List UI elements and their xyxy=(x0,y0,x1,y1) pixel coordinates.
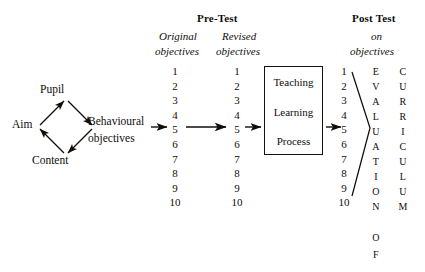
pretest-col1-line2: objectives xyxy=(155,46,199,57)
posttest-objective-item-8: 8 xyxy=(336,168,352,179)
process-line-teaching: Teaching xyxy=(265,76,322,88)
posttest-objective-item-6: 6 xyxy=(336,139,352,150)
original-objective-item-2: 2 xyxy=(167,81,183,92)
original-objective-item-10: 10 xyxy=(167,197,183,208)
curriculum-letter-u: U xyxy=(396,82,410,92)
original-objective-item-9: 9 xyxy=(167,183,183,194)
curriculum-letter-i: I xyxy=(396,127,410,137)
posttest-objective-item-3: 3 xyxy=(336,95,352,106)
original-objective-item-7: 7 xyxy=(167,154,183,165)
curriculum-letter-m: M xyxy=(396,202,410,212)
curriculum-letter-u: U xyxy=(396,187,410,197)
revised-objective-item-1: 1 xyxy=(229,66,245,77)
revised-objective-item-5: 5 xyxy=(229,124,245,135)
posttest-objective-item-5: 5 xyxy=(336,124,352,135)
curriculum-letter-r: R xyxy=(396,97,410,107)
node-content-label: Content xyxy=(32,155,68,167)
posttest-sub1: on xyxy=(371,31,382,42)
posttest-sub2: objectives xyxy=(350,46,394,57)
of-letter-o: O xyxy=(369,233,383,243)
curriculum-letter-l: L xyxy=(396,172,410,182)
evaluation-letter-v: V xyxy=(369,82,383,92)
evaluation-letter-l: L xyxy=(369,112,383,122)
pretest-heading: Pre-Test xyxy=(197,13,238,24)
of-letter-f: F xyxy=(369,250,383,260)
evaluation-letter-t: T xyxy=(369,157,383,167)
curriculum-letter-c: C xyxy=(396,67,410,77)
node-aim-label: Aim xyxy=(12,119,32,131)
posttest-objective-item-10: 10 xyxy=(336,197,352,208)
diamond-edges xyxy=(40,101,92,153)
evaluation-letter-o: O xyxy=(369,187,383,197)
process-line-process: Process xyxy=(265,135,322,147)
posttest-chevron xyxy=(352,72,370,196)
curriculum-evaluation-diagram: Aim Pupil Content Behavioural objectives… xyxy=(0,0,425,272)
original-objective-item-4: 4 xyxy=(167,110,183,121)
original-objective-item-6: 6 xyxy=(167,139,183,150)
diagram-strokes xyxy=(0,0,425,272)
pretest-col2-line2: objectives xyxy=(216,46,260,57)
posttest-objective-item-9: 9 xyxy=(336,183,352,194)
curriculum-letter-c: C xyxy=(396,142,410,152)
revised-objective-item-4: 4 xyxy=(229,110,245,121)
revised-objective-item-2: 2 xyxy=(229,81,245,92)
original-objective-item-5: 5 xyxy=(167,124,183,135)
evaluation-letter-a: A xyxy=(369,97,383,107)
revised-objective-item-3: 3 xyxy=(229,95,245,106)
revised-objective-item-6: 6 xyxy=(229,139,245,150)
behavioural-objectives-line1: Behavioural xyxy=(88,116,144,128)
posttest-objective-item-4: 4 xyxy=(336,110,352,121)
teaching-learning-process-box: Teaching Learning Process xyxy=(264,66,323,155)
revised-objective-item-7: 7 xyxy=(229,154,245,165)
evaluation-letter-e: E xyxy=(369,67,383,77)
pretest-col2-line1: Revised xyxy=(222,31,256,42)
posttest-objective-item-2: 2 xyxy=(336,81,352,92)
evaluation-letter-a: A xyxy=(369,142,383,152)
evaluation-letter-u: U xyxy=(369,127,383,137)
original-objective-item-1: 1 xyxy=(167,66,183,77)
posttest-objective-item-1: 1 xyxy=(336,66,352,77)
revised-objective-item-10: 10 xyxy=(229,197,245,208)
posttest-heading: Post Test xyxy=(352,13,396,24)
pretest-col1-line1: Original xyxy=(159,31,197,42)
original-objective-item-3: 3 xyxy=(167,95,183,106)
curriculum-letter-r: R xyxy=(396,112,410,122)
revised-objective-item-8: 8 xyxy=(229,168,245,179)
behavioural-objectives-line2: objectives xyxy=(88,133,135,145)
node-pupil-label: Pupil xyxy=(40,84,64,96)
process-line-learning: Learning xyxy=(265,106,322,118)
original-objective-item-8: 8 xyxy=(167,168,183,179)
evaluation-letter-i: I xyxy=(369,172,383,182)
posttest-objective-item-7: 7 xyxy=(336,154,352,165)
curriculum-letter-u: U xyxy=(396,157,410,167)
revised-objective-item-9: 9 xyxy=(229,183,245,194)
evaluation-letter-n: N xyxy=(369,202,383,212)
